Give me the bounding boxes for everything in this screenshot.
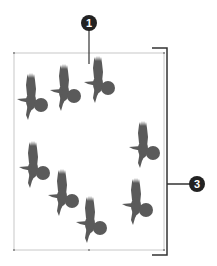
callout-3: 3 xyxy=(189,176,205,192)
callout-3-label: 3 xyxy=(194,178,200,190)
bird-icon xyxy=(48,169,79,216)
bird-flock xyxy=(17,56,160,243)
bird-icon xyxy=(17,73,48,120)
bird-icon xyxy=(76,196,107,243)
bird-icon xyxy=(19,141,50,188)
bird-icon xyxy=(129,121,160,168)
callout-1: 1 xyxy=(81,15,97,31)
bird-icon xyxy=(50,64,81,111)
diagram-canvas: 1 3 xyxy=(0,0,217,266)
bird-icon xyxy=(122,178,153,225)
callout-1-label: 1 xyxy=(86,17,92,29)
